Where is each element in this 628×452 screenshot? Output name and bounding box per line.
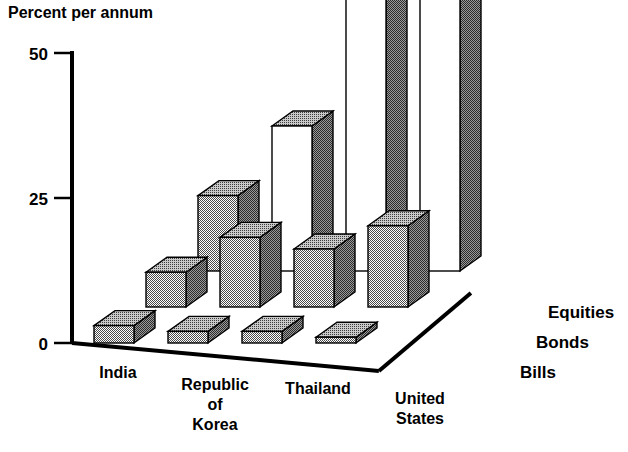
chart-title: Percent per annum	[8, 4, 153, 21]
category-label-thailand: Thailand	[285, 380, 351, 397]
bar-side-face	[460, 0, 481, 271]
bar-front-face	[316, 337, 356, 343]
category-label-republic-of-korea: Republic	[181, 376, 249, 393]
bar-front-face	[168, 331, 208, 343]
series-label-bonds: Bonds	[536, 333, 589, 352]
series-label-equities: Equities	[548, 303, 614, 322]
category-label-united-states: United	[395, 390, 445, 407]
series-label-bills: Bills	[520, 363, 556, 382]
category-label-united-states: States	[396, 410, 444, 427]
bar-chart-3d: Percent per annum 50250 IndiaRepublicofK…	[0, 0, 628, 452]
y-tick-label-50: 50	[29, 45, 48, 64]
bar-republic-of-korea-bonds	[220, 222, 281, 307]
bar-front-face	[242, 331, 282, 343]
category-label-republic-of-korea: of	[207, 396, 223, 413]
y-tick-label-0: 0	[39, 335, 48, 354]
bar-united-states-bonds	[368, 211, 429, 307]
bar-front-face	[220, 237, 260, 307]
chart-root: Percent per annum 50250 IndiaRepublicofK…	[0, 0, 628, 452]
category-label-india: India	[99, 364, 136, 381]
bar-front-face	[94, 326, 134, 343]
bar-front-face	[294, 249, 334, 307]
bar-front-face	[146, 272, 186, 307]
category-label-republic-of-korea: Korea	[192, 416, 237, 433]
y-tick-label-25: 25	[29, 190, 48, 209]
bar-thailand-bonds	[294, 234, 355, 307]
bar-front-face	[368, 226, 408, 307]
bar-side-face	[408, 211, 429, 307]
